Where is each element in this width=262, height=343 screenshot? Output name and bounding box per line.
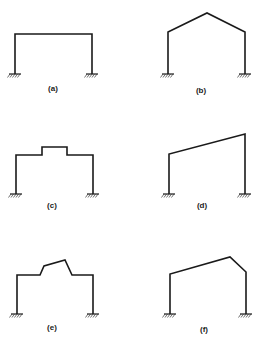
- panel-label-d: (d): [197, 201, 207, 210]
- frame-members: [168, 13, 245, 74]
- fixed-support-icon: [161, 74, 175, 78]
- panel-label-b: (b): [196, 86, 206, 95]
- frame-panel-b: [161, 13, 252, 78]
- portal-frames-diagram: [0, 0, 262, 343]
- fixed-support-icon: [85, 74, 99, 78]
- panel-label-f: (f): [200, 325, 208, 334]
- panel-label-a: (a): [48, 84, 58, 93]
- frame-panel-c: [9, 147, 100, 198]
- fixed-support-icon: [86, 314, 100, 318]
- frame-members: [16, 147, 93, 194]
- panel-label-c: (c): [47, 201, 57, 210]
- fixed-support-icon: [238, 194, 252, 198]
- frame-members: [169, 134, 245, 194]
- frame-panel-a: [8, 34, 99, 78]
- frame-panel-e: [10, 260, 100, 318]
- frame-panel-d: [162, 134, 252, 198]
- frame-panel-f: [163, 257, 253, 318]
- frame-members: [15, 34, 92, 74]
- fixed-support-icon: [238, 74, 252, 78]
- fixed-support-icon: [239, 314, 253, 318]
- fixed-support-icon: [163, 314, 177, 318]
- fixed-support-icon: [10, 314, 24, 318]
- fixed-support-icon: [8, 74, 22, 78]
- frame-members: [170, 257, 246, 314]
- panel-label-e: (e): [47, 323, 57, 332]
- frame-members: [17, 260, 93, 314]
- fixed-support-icon: [86, 194, 100, 198]
- fixed-support-icon: [162, 194, 176, 198]
- fixed-support-icon: [9, 194, 23, 198]
